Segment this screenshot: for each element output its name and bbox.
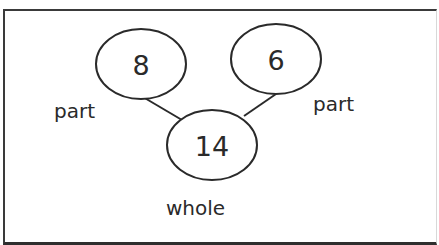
part-node-left: 8 <box>96 29 186 99</box>
whole-node: 14 <box>167 110 257 180</box>
connector-right <box>244 94 276 116</box>
part-label-right: part <box>313 92 354 116</box>
part-node-right: 6 <box>231 24 321 94</box>
whole-label: whole <box>166 196 225 220</box>
part-label-left: part <box>54 99 95 123</box>
part-value-left: 8 <box>132 50 149 81</box>
part-value-right: 6 <box>267 45 284 76</box>
connector-left <box>143 97 182 120</box>
whole-value: 14 <box>195 131 229 162</box>
